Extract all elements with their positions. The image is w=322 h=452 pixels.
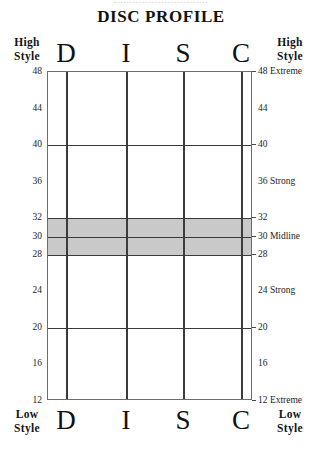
tick-left-24: 24	[2, 285, 42, 295]
label-high-style-right-line1: High	[266, 36, 314, 50]
tick-left-12: 12	[2, 395, 42, 405]
column-line-influence	[126, 72, 128, 399]
tickmark-48	[252, 71, 256, 72]
tickmark-12	[252, 400, 256, 401]
page-title: DISC PROFILE	[0, 7, 322, 27]
tick-left-30: 30	[2, 231, 42, 241]
tickmark-32	[252, 217, 256, 218]
tick-right-value-32: 32	[258, 212, 268, 222]
label-low-style-left-line1: Low	[3, 408, 51, 422]
tickmark-30	[252, 236, 256, 237]
tick-right-20: 20	[258, 322, 268, 332]
tick-left-28: 28	[2, 249, 42, 259]
disc-letter-top-influence: I	[111, 38, 141, 68]
tick-left-16: 16	[2, 358, 42, 368]
disc-letter-top-conscientiousness: C	[226, 38, 256, 68]
disc-letter-bottom-dominance: D	[51, 405, 81, 435]
label-high-style-left: High Style	[3, 36, 51, 63]
gridline-h-30	[48, 237, 251, 238]
tick-right-note-36: Strong	[268, 176, 296, 186]
label-low-style-right: Low Style	[266, 408, 314, 435]
tick-right-value-20: 20	[258, 322, 268, 332]
tick-right-note-48: Extreme	[268, 66, 303, 76]
disc-letters-top: DISC	[47, 38, 252, 68]
tick-right-24: 24 Strong	[258, 285, 295, 295]
disc-letter-top-dominance: D	[51, 38, 81, 68]
tick-right-value-30: 30	[258, 231, 268, 241]
tick-right-36: 36 Strong	[258, 176, 295, 186]
label-high-style-left-line1: High	[3, 36, 51, 50]
disc-chart	[47, 71, 252, 400]
label-low-style-right-line1: Low	[266, 408, 314, 422]
disc-letter-bottom-conscientiousness: C	[226, 405, 256, 435]
gridline-h-40	[48, 145, 251, 146]
label-low-style-left: Low Style	[3, 408, 51, 435]
tick-left-20: 20	[2, 322, 42, 332]
tick-right-note-12: Extreme	[268, 395, 303, 405]
column-line-steadiness	[183, 72, 185, 399]
tick-right-28: 28	[258, 249, 268, 259]
tick-right-40: 40	[258, 139, 268, 149]
tick-left-40: 40	[2, 139, 42, 149]
tick-right-value-40: 40	[258, 139, 268, 149]
tick-right-value-24: 24	[258, 285, 268, 295]
tick-right-16: 16	[258, 358, 268, 368]
tickmark-20	[252, 327, 256, 328]
disc-letter-top-steadiness: S	[168, 38, 198, 68]
tick-right-note-30: Midline	[268, 231, 300, 241]
gridline-h-28	[48, 255, 251, 256]
tickmark-28	[252, 254, 256, 255]
tick-left-44: 44	[2, 103, 42, 113]
tick-right-value-28: 28	[258, 249, 268, 259]
tick-left-36: 36	[2, 176, 42, 186]
tick-right-30: 30 Midline	[258, 231, 300, 241]
label-low-style-right-line2: Style	[266, 422, 314, 436]
disc-letter-bottom-steadiness: S	[168, 405, 198, 435]
tick-right-note-24: Strong	[268, 285, 296, 295]
tick-right-44: 44	[258, 103, 268, 113]
label-low-style-left-line2: Style	[3, 422, 51, 436]
tick-left-48: 48	[2, 66, 42, 76]
scan-artifact-text: ..............................	[0, 0, 322, 7]
disc-letter-bottom-influence: I	[111, 405, 141, 435]
tick-right-value-36: 36	[258, 176, 268, 186]
tick-right-32: 32	[258, 212, 268, 222]
tickmark-40	[252, 144, 256, 145]
gridline-h-20	[48, 328, 251, 329]
tick-right-12: 12 Extreme	[258, 395, 302, 405]
gridline-h-32	[48, 218, 251, 219]
tick-left-32: 32	[2, 212, 42, 222]
tick-right-48: 48 Extreme	[258, 66, 302, 76]
disc-letters-bottom: DISC	[47, 405, 252, 435]
column-line-conscientiousness	[241, 72, 243, 399]
tick-right-value-44: 44	[258, 103, 268, 113]
disc-plot-area	[48, 72, 251, 399]
label-high-style-right: High Style	[266, 36, 314, 63]
column-line-dominance	[66, 72, 68, 399]
tick-right-value-48: 48	[258, 66, 268, 76]
tick-right-value-12: 12	[258, 395, 268, 405]
label-high-style-right-line2: Style	[266, 50, 314, 64]
label-high-style-left-line2: Style	[3, 50, 51, 64]
tick-right-value-16: 16	[258, 358, 268, 368]
